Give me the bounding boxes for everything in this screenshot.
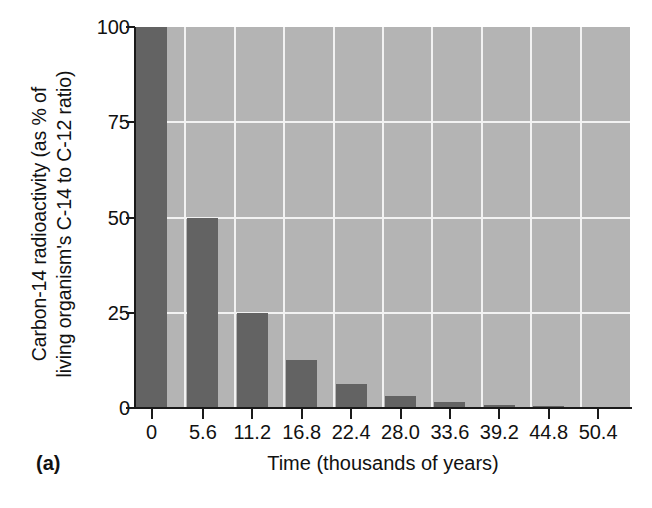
gridline-vertical bbox=[333, 27, 335, 408]
bar bbox=[336, 384, 367, 408]
x-axis-tick-mark bbox=[400, 409, 402, 419]
gridline-vertical bbox=[234, 27, 236, 408]
x-axis-tick-mark bbox=[449, 409, 451, 419]
x-axis-title: Time (thousands of years) bbox=[136, 452, 630, 475]
x-axis-tick-mark bbox=[202, 409, 204, 419]
y-axis-tick-mark bbox=[126, 407, 135, 409]
y-axis-tick-label: 50 bbox=[82, 208, 130, 228]
y-axis-title: Carbon-14 radioactivity (as % of living … bbox=[24, 24, 80, 424]
bar bbox=[237, 313, 268, 408]
figure-panel-a: Carbon-14 radioactivity (as % of living … bbox=[0, 0, 652, 508]
x-axis-tick-mark bbox=[301, 409, 303, 419]
x-axis-tick-mark bbox=[498, 409, 500, 419]
y-axis-tick-label: 100 bbox=[82, 17, 130, 37]
gridline-vertical bbox=[382, 27, 384, 408]
y-axis-title-line-2: living organism's C-14 to C-12 ratio) bbox=[52, 71, 77, 378]
gridline-vertical bbox=[481, 27, 483, 408]
x-axis-tick-mark bbox=[350, 409, 352, 419]
panel-label: (a) bbox=[36, 452, 60, 475]
gridline-vertical bbox=[283, 27, 285, 408]
bar bbox=[286, 360, 317, 408]
y-axis-tick-mark bbox=[126, 121, 135, 123]
y-axis-tick-mark bbox=[126, 26, 135, 28]
x-axis-tick-mark bbox=[597, 409, 599, 419]
gridline-vertical bbox=[431, 27, 433, 408]
bar bbox=[136, 27, 167, 408]
gridline-vertical bbox=[530, 27, 532, 408]
gridline-vertical bbox=[580, 27, 582, 408]
y-axis-tick-mark bbox=[126, 312, 135, 314]
x-axis-tick-mark bbox=[548, 409, 550, 419]
x-axis-tick-mark bbox=[251, 409, 253, 419]
bar bbox=[187, 218, 218, 409]
x-axis-tick-mark bbox=[151, 409, 153, 419]
x-axis-tick-label: 50.4 bbox=[566, 421, 630, 443]
plot-area bbox=[136, 27, 630, 408]
y-axis-tick-label: 25 bbox=[82, 303, 130, 323]
y-axis-tick-label: 75 bbox=[82, 112, 130, 132]
y-axis-tick-label: 0 bbox=[82, 398, 130, 418]
y-axis-title-line-1: Carbon-14 radioactivity (as % of bbox=[27, 87, 52, 361]
y-axis-tick-mark bbox=[126, 217, 135, 219]
gridline-vertical bbox=[184, 27, 186, 408]
x-axis-line bbox=[134, 407, 632, 409]
